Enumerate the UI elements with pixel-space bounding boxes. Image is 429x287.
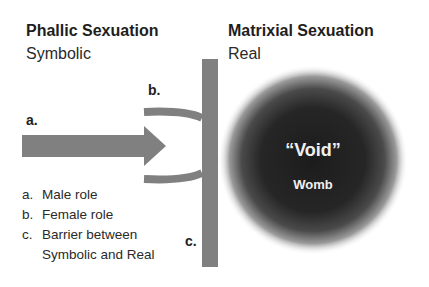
label-a: a. xyxy=(26,112,38,128)
barrier-bar xyxy=(202,59,218,267)
female-role-upper-curve xyxy=(144,112,202,118)
male-role-arrow xyxy=(22,126,166,166)
left-subtitle: Symbolic xyxy=(26,45,91,63)
legend-item: b. Female role xyxy=(22,205,155,225)
right-subtitle: Real xyxy=(228,45,261,63)
legend-item: c. Barrier between xyxy=(22,225,155,245)
female-role-lower-curve xyxy=(144,173,202,179)
legend: a. Male role b. Female role c. Barrier b… xyxy=(22,185,155,265)
legend-item: Symbolic and Real xyxy=(22,245,155,265)
void-title: “Void” xyxy=(263,140,363,161)
label-c: c. xyxy=(185,233,197,249)
void-subtitle: Womb xyxy=(263,177,363,192)
left-title: Phallic Sexuation xyxy=(26,22,158,40)
legend-item: a. Male role xyxy=(22,185,155,205)
right-title: Matrixial Sexuation xyxy=(228,22,374,40)
label-b: b. xyxy=(148,82,160,98)
